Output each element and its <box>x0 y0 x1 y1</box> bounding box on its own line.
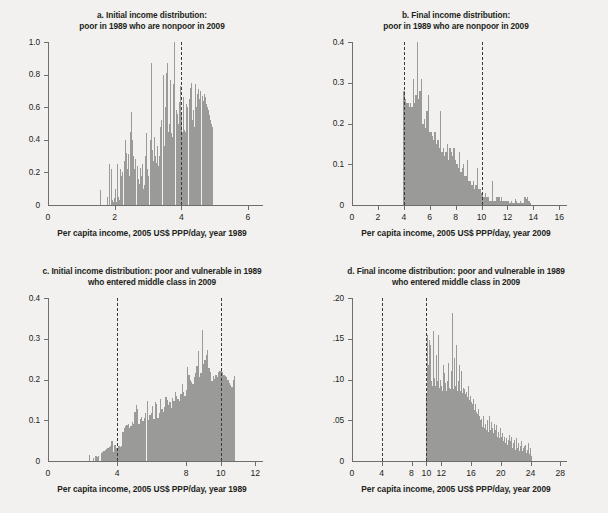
panel-d-x-tick-label: 0 <box>337 468 367 478</box>
panel-d-y-tick <box>348 339 352 340</box>
panel-d-y-tick-label: .15 <box>310 333 344 343</box>
panel-c-title: c. Initial income distribution: poor and… <box>0 266 304 288</box>
histogram-bar <box>530 203 531 205</box>
panel-b-x-tick <box>378 206 379 210</box>
panel-d-y-tick-label: 0 <box>310 456 344 466</box>
panel-c-xaxis-caption: Per capita income, 2005 US$ PPP/day, yea… <box>0 484 304 494</box>
panel-a-x-tick-label: 6 <box>233 212 263 222</box>
panel-b-plot: 00.10.20.30.40246810121416 <box>352 42 567 205</box>
panel-b-xaxis-caption: Per capita income, 2005 US$ PPP/day, yea… <box>304 228 608 238</box>
panel-d-y-tick-label: .20 <box>310 293 344 303</box>
histogram-bar <box>531 456 532 461</box>
panel-c-threshold-line <box>221 298 222 461</box>
panel-d-plot: 0.05.10.15.20048101216202428 <box>352 298 567 461</box>
panel-a: a. Initial income distribution: poor in … <box>0 0 304 256</box>
histogram-bar <box>98 456 99 461</box>
panel-b-x-tick <box>430 206 431 210</box>
panel-a-x-tick <box>248 206 249 210</box>
panel-c-y-tick <box>44 420 48 421</box>
panel-d-x-axis-line <box>352 461 567 462</box>
panel-b-threshold-line <box>404 42 405 205</box>
panel-a-bars <box>48 42 263 205</box>
panel-a-y-tick-label: 0.6 <box>6 102 40 112</box>
panel-c-y-tick-label: 0.4 <box>6 293 40 303</box>
panel-b-y-tick-label: 0.2 <box>310 118 344 128</box>
panel-a-x-tick-label: 2 <box>100 212 130 222</box>
panel-d-x-tick-label: 20 <box>486 468 516 478</box>
panel-b-bars <box>352 42 567 205</box>
panel-a-y-tick <box>44 140 48 141</box>
panel-d-y-tick <box>348 420 352 421</box>
panel-b: b. Final income distribution: poor in 19… <box>304 0 608 256</box>
panel-b-title: b. Final income distribution: poor in 19… <box>304 10 608 32</box>
panel-d-x-tick <box>426 462 427 466</box>
histogram-bar <box>212 127 213 205</box>
panel-d-x-tick-label: 28 <box>545 468 575 478</box>
panel-d-y-tick <box>348 298 352 299</box>
panel-c-threshold-line <box>117 298 118 461</box>
panel-d: d. Final income distribution: poor and v… <box>304 256 608 513</box>
panel-a-y-tick-label: 0.8 <box>6 69 40 79</box>
panel-a-y-tick <box>44 75 48 76</box>
panel-c-y-tick-label: 0 <box>6 456 40 466</box>
panel-c-x-tick-label: 4 <box>102 468 132 478</box>
panel-b-x-tick-label: 16 <box>544 212 574 222</box>
panel-d-x-tick <box>471 462 472 466</box>
panel-d-threshold-line <box>382 298 383 461</box>
panel-a-x-axis-line <box>48 205 263 206</box>
panel-d-x-tick <box>501 462 502 466</box>
panel-c-x-axis-line <box>48 461 263 462</box>
panel-d-xaxis-caption: Per capita income, 2005 US$ PPP/day, yea… <box>304 484 608 494</box>
panel-b-y-tick-label: 0.4 <box>310 37 344 47</box>
panel-c-bars <box>48 298 263 461</box>
panel-a-x-tick-label: 4 <box>166 212 196 222</box>
panel-a-y-tick-label: 1.0 <box>6 37 40 47</box>
panel-b-y-tick <box>348 83 352 84</box>
panel-c-x-tick <box>255 462 256 466</box>
panel-b-x-tick <box>507 206 508 210</box>
panel-d-bars <box>352 298 567 461</box>
panel-b-y-tick <box>348 42 352 43</box>
panel-c-x-tick <box>186 462 187 466</box>
panel-a-x-tick-label: 0 <box>33 212 63 222</box>
panel-d-x-tick-label: 16 <box>456 468 486 478</box>
panel-d-x-tick <box>382 462 383 466</box>
panel-c-y-tick-label: 0.3 <box>6 333 40 343</box>
panel-b-y-tick-label: 0.3 <box>310 77 344 87</box>
panel-c-x-tick-label: 10 <box>206 468 236 478</box>
panel-b-x-tick <box>456 206 457 210</box>
panel-a-threshold-line <box>181 42 182 205</box>
panel-d-y-tick-label: .10 <box>310 374 344 384</box>
panel-c-x-tick-label: 0 <box>33 468 63 478</box>
panel-c-plot: 00.10.20.30.40481012 <box>48 298 263 461</box>
histogram-bar <box>93 458 94 461</box>
panel-c: c. Initial income distribution: poor and… <box>0 256 304 513</box>
panel-a-xaxis-caption: Per capita income, 2005 US$ PPP/day, yea… <box>0 228 304 238</box>
panel-a-x-tick <box>181 206 182 210</box>
panel-d-y-tick <box>348 380 352 381</box>
panel-b-y-tick <box>348 164 352 165</box>
histogram-bar <box>89 455 90 461</box>
panel-b-x-tick <box>533 206 534 210</box>
panel-d-threshold-line <box>426 298 427 461</box>
panel-a-y-tick-label: 0.2 <box>6 167 40 177</box>
panel-d-x-tick <box>441 462 442 466</box>
panel-d-y-tick-label: .05 <box>310 415 344 425</box>
panel-c-y-tick <box>44 339 48 340</box>
panel-d-x-tick-label: 24 <box>516 468 546 478</box>
histogram-bar <box>107 197 108 205</box>
panel-b-y-tick <box>348 124 352 125</box>
panel-a-y-tick <box>44 42 48 43</box>
panel-c-x-tick-label: 8 <box>171 468 201 478</box>
panel-b-x-axis-line <box>352 205 567 206</box>
panel-c-x-tick-label: 12 <box>240 468 270 478</box>
panel-d-x-tick-label: 4 <box>367 468 397 478</box>
panel-c-y-tick <box>44 380 48 381</box>
panel-c-x-tick <box>117 462 118 466</box>
panel-a-y-tick-label: 0.4 <box>6 134 40 144</box>
panel-c-y-tick-label: 0.1 <box>6 415 40 425</box>
panel-d-title: d. Final income distribution: poor and v… <box>304 266 608 288</box>
panel-a-plot: 00.20.40.60.81.00246 <box>48 42 263 205</box>
panel-b-threshold-line <box>482 42 483 205</box>
panel-c-x-tick <box>221 462 222 466</box>
